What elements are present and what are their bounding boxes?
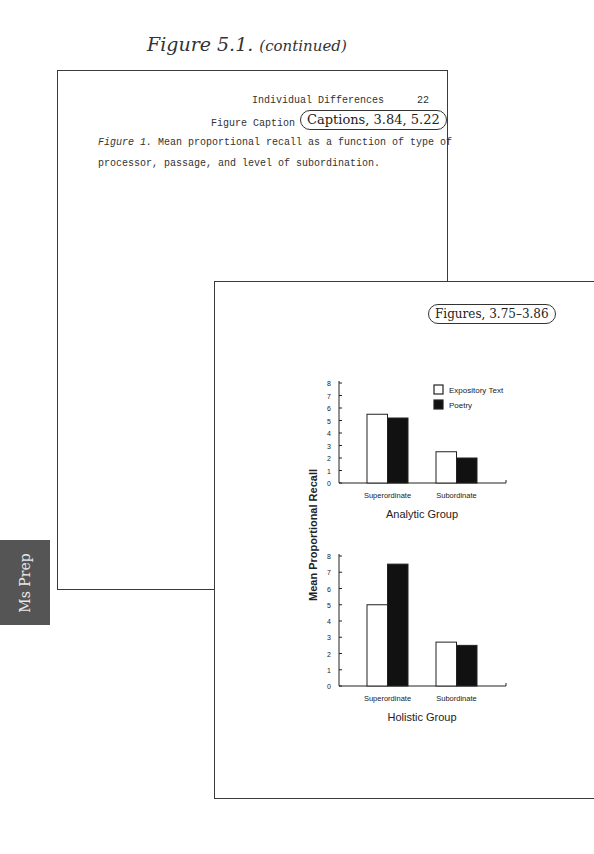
running-head: Individual Differences	[252, 95, 384, 106]
section-tab-label: Ms Prep	[17, 553, 33, 612]
caption-text-line2: processor, passage, and level of subordi…	[98, 158, 380, 169]
section-tab: Ms Prep	[0, 540, 50, 625]
caption-text-line1: Figure 1. Mean proportional recall as a …	[98, 137, 452, 148]
caption-label: Figure Caption	[211, 118, 295, 129]
continued-label: (continued)	[259, 37, 346, 55]
manuscript-page-figure	[214, 281, 594, 799]
figures-callout: Figures, 3.75–3.86	[428, 304, 556, 324]
captions-callout: Captions, 3.84, 5.22	[300, 110, 447, 130]
caption-figure-label: Figure 1.	[98, 137, 152, 148]
page-number: 22	[417, 95, 429, 106]
caption-text: Mean proportional recall as a function o…	[152, 137, 452, 148]
figure-number: Figure 5.1.	[147, 33, 253, 55]
figure-heading: Figure 5.1. (continued)	[147, 33, 347, 55]
